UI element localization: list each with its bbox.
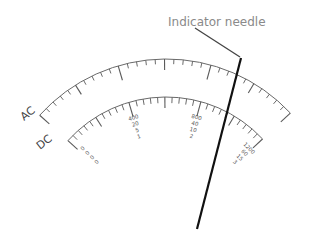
ac-tick [92, 76, 94, 81]
dc-tick [253, 134, 257, 138]
range-numbers: 0000400205180040102120060153 [79, 113, 256, 166]
dc-tick [115, 107, 117, 113]
dc-tick [237, 120, 240, 125]
dc-tick [213, 106, 215, 112]
dc-tick [73, 135, 77, 139]
ac-tick [127, 63, 128, 68]
range-number: 0 [93, 158, 100, 165]
dc-tick [206, 104, 208, 110]
ac-scale-label: AC [18, 104, 38, 124]
dc-tick [102, 114, 105, 119]
ac-tick [46, 108, 50, 112]
ac-tick [75, 85, 81, 94]
dc-tick [150, 98, 151, 104]
range-number: 2 [189, 133, 194, 140]
dc-tick [248, 129, 252, 134]
dc-tick [179, 98, 180, 104]
callout-leader-line [195, 28, 240, 57]
dc-tick [219, 109, 222, 114]
dc-tick [253, 139, 263, 148]
dc-tick [136, 100, 137, 106]
ac-tick [243, 79, 245, 83]
ac-tick [248, 84, 254, 93]
ac-tick [266, 94, 269, 98]
dc-tick [68, 141, 78, 150]
ac-tick [146, 60, 147, 65]
ac-tick [259, 89, 262, 93]
ac-tick [281, 113, 291, 122]
ac-tick [227, 71, 229, 76]
dc-tick [96, 117, 102, 126]
ac-tick [53, 102, 56, 106]
ac-scale-ticks [40, 59, 291, 124]
dc-tick [84, 126, 88, 131]
dc-tick [108, 110, 111, 115]
ac-tick [274, 100, 277, 104]
ac-tick [60, 96, 63, 100]
indicator-needle-callout: Indicator needle [168, 15, 266, 29]
ac-tick [100, 72, 102, 77]
ac-tick [218, 68, 220, 73]
range-number: 3 [232, 158, 239, 165]
ac-scale: AC [18, 59, 290, 124]
dc-tick [229, 116, 235, 125]
ac-tick [136, 62, 137, 67]
ac-tick [84, 80, 86, 84]
ac-tick [207, 65, 211, 79]
ac-tick [109, 69, 111, 74]
range-number: 1 [136, 133, 141, 140]
dc-tick [243, 124, 247, 129]
ac-tick [40, 115, 50, 124]
dc-scale-ticks [68, 97, 263, 149]
ac-tick [118, 66, 122, 80]
ac-tick [201, 63, 202, 68]
dc-tick [78, 130, 82, 134]
dc-scale-label: DC [34, 132, 55, 152]
dc-tick [186, 99, 187, 105]
indicator-needle [197, 58, 241, 229]
dc-tick [90, 121, 93, 126]
ac-tick [280, 106, 283, 110]
dc-tick [193, 100, 194, 106]
ac-tick [183, 60, 184, 65]
ac-tick [68, 90, 71, 94]
dc-tick [143, 99, 144, 105]
dc-tick [122, 105, 124, 111]
meter-face: AC DC 0000400205180040102120060153 Indic… [0, 0, 310, 244]
ac-tick [192, 61, 193, 66]
